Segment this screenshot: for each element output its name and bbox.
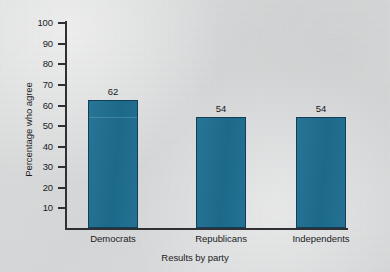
bar-democrats — [88, 100, 138, 228]
y-tick-70 — [58, 84, 65, 86]
y-tick-50 — [58, 125, 65, 127]
y-axis-line — [65, 21, 67, 229]
bar-chart: Percentage who agree 100 90 80 70 60 50 … — [0, 0, 390, 272]
y-tick-label-70: 70 — [43, 79, 53, 90]
y-tick-60 — [58, 105, 65, 107]
y-tick-label-90: 90 — [43, 38, 53, 49]
y-tick-100 — [58, 22, 65, 24]
y-tick-label-50: 50 — [43, 120, 53, 131]
x-category-label-republicans: Republicans — [181, 233, 261, 244]
bar-republicans — [196, 117, 246, 228]
x-category-label-independents: Independents — [281, 233, 361, 244]
bar-independents — [296, 117, 346, 228]
y-tick-30 — [58, 166, 65, 168]
y-tick-10 — [58, 207, 65, 209]
x-category-label-democrats: Democrats — [73, 233, 153, 244]
y-tick-20 — [58, 187, 65, 189]
bar-value-republicans: 54 — [196, 103, 246, 114]
y-tick-label-40: 40 — [43, 141, 53, 152]
bar-value-independents: 54 — [296, 103, 346, 114]
x-axis-title: Results by party — [0, 252, 390, 263]
y-tick-label-10: 10 — [43, 202, 53, 213]
y-tick-label-60: 60 — [43, 100, 53, 111]
y-tick-label-80: 80 — [43, 58, 53, 69]
y-tick-90 — [58, 43, 65, 45]
y-tick-label-20: 20 — [43, 182, 53, 193]
y-tick-label-100: 100 — [37, 17, 53, 28]
bar-scan-artifact — [89, 117, 137, 118]
x-axis-line — [65, 228, 348, 230]
y-tick-label-30: 30 — [43, 161, 53, 172]
bar-value-democrats: 62 — [88, 86, 138, 97]
y-tick-80 — [58, 63, 65, 65]
y-axis-title: Percentage who agree — [23, 50, 34, 210]
y-tick-40 — [58, 146, 65, 148]
